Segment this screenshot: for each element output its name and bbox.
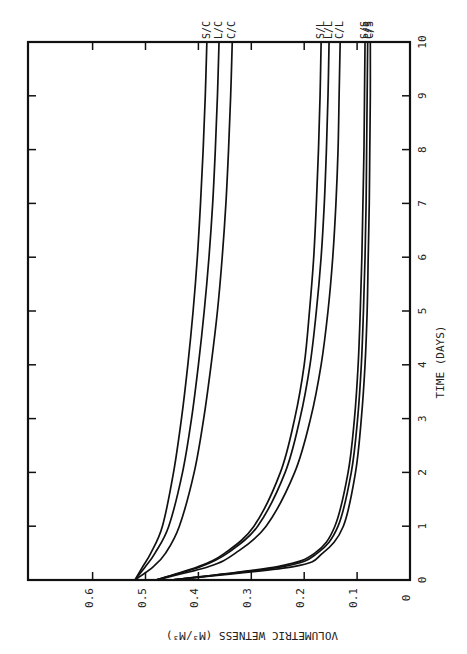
curve-l-l — [156, 42, 329, 580]
time-tick-label: 7 — [416, 200, 429, 207]
wetness-tick-label: 0.3 — [241, 588, 254, 608]
plot-frame — [28, 42, 410, 580]
wetness-tick-label: 0.6 — [83, 588, 96, 608]
time-tick-label: 6 — [416, 254, 429, 261]
time-tick-label: 2 — [416, 469, 429, 476]
curve-l-c — [135, 42, 219, 580]
wetness-tick-label: 0.1 — [347, 588, 360, 608]
wetness-tick-label: 0 — [400, 595, 413, 602]
curve-label: L/C — [213, 21, 224, 39]
time-tick-label: 3 — [416, 415, 429, 422]
curve-label: S/C — [201, 21, 212, 39]
wetness-tick-label: 0.5 — [136, 588, 149, 608]
curve-label: C/L — [334, 21, 345, 39]
time-tick-label: 10 — [416, 35, 429, 48]
curve-c-c — [135, 42, 232, 580]
time-axis-title: TIME (DAYS) — [434, 326, 447, 399]
curve-c-l — [156, 42, 340, 580]
time-tick-label: 0 — [416, 577, 429, 584]
curves — [135, 42, 370, 580]
curve-label: C/S — [364, 21, 375, 39]
curve-labels: S/CL/CC/CS/LL/LC/LS/SL/SC/S — [201, 21, 375, 39]
time-tick-label: 4 — [416, 361, 429, 368]
curve-c-s — [172, 42, 370, 580]
curve-s-l — [156, 42, 321, 580]
wetness-time-chart: 012345678910 00.10.20.30.40.50.6 S/CL/CC… — [0, 0, 467, 654]
time-tick-label: 1 — [416, 523, 429, 530]
wetness-tick-label: 0.2 — [294, 588, 307, 608]
time-tick-label: 8 — [416, 146, 429, 153]
curve-label: C/C — [226, 21, 237, 39]
wetness-axis-title: VOLUMETRIC WETNESS (M³/M³) — [166, 629, 338, 642]
curve-s-c — [135, 42, 207, 580]
time-tick-label: 9 — [416, 92, 429, 99]
curve-label: L/L — [323, 21, 334, 39]
wetness-tick-label: 0.4 — [188, 588, 201, 608]
time-axis-ticks: 012345678910 — [28, 35, 429, 583]
time-tick-label: 5 — [416, 308, 429, 315]
